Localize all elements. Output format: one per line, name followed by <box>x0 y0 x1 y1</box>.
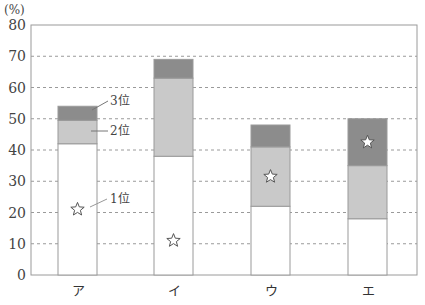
bar-segment <box>154 156 193 275</box>
bar-segment <box>348 219 387 275</box>
y-axis-ticks: 01020304050607080 <box>8 17 26 283</box>
y-tick-label: 50 <box>8 111 26 127</box>
bar-segment <box>58 106 97 120</box>
label-rank3: 3位 <box>110 93 130 108</box>
y-tick-label: 40 <box>8 142 26 158</box>
bar-segment <box>251 125 290 147</box>
bar-segment <box>348 166 387 219</box>
y-tick-label: 70 <box>8 48 26 64</box>
bar-segment <box>251 206 290 275</box>
stacked-bar-chart: (%) 01020304050607080 3位 2位 1位 ア イ ウ エ <box>0 0 425 305</box>
label-rank1: 1位 <box>110 191 130 206</box>
x-label-e: エ <box>362 283 375 298</box>
bar-segment <box>154 59 193 78</box>
y-tick-label: 0 <box>17 267 26 283</box>
y-tick-label: 30 <box>8 173 26 189</box>
bar-segment <box>58 120 97 143</box>
x-label-i: イ <box>168 283 181 298</box>
label-rank2: 2位 <box>110 123 130 138</box>
y-tick-label: 60 <box>8 80 26 96</box>
bars <box>58 59 387 275</box>
y-axis-unit: (%) <box>4 3 25 17</box>
y-tick-label: 80 <box>8 17 26 33</box>
bar-segment <box>154 78 193 156</box>
y-tick-label: 20 <box>8 205 26 221</box>
y-tick-label: 10 <box>8 236 26 252</box>
x-label-a: ア <box>72 283 85 298</box>
leader-rank3 <box>92 101 108 110</box>
x-label-u: ウ <box>265 283 278 298</box>
star-markers <box>71 135 374 246</box>
